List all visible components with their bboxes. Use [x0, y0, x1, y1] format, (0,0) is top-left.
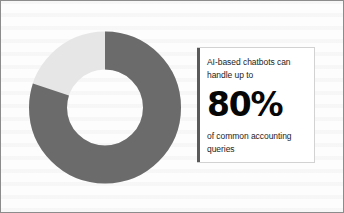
- callout-lead-text: AI-based chatbots can handle up to: [207, 56, 305, 81]
- callout-trailing-text: of common accounting queries: [207, 130, 305, 155]
- callout-accent-bar: [197, 48, 200, 162]
- donut-chart-graphic: [29, 21, 181, 194]
- donut-chart-area: [23, 13, 188, 203]
- callout-box: AI-based chatbots can handle up to 80% o…: [197, 47, 315, 163]
- stat-value: 80%: [207, 88, 305, 122]
- infographic-card: AI-based chatbots can handle up to 80% o…: [0, 0, 344, 213]
